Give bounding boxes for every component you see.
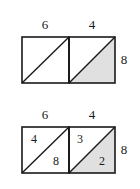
bottom-figure-height-label: 8 — [121, 142, 128, 157]
top-figure-right-width-label: 4 — [89, 17, 96, 32]
bottom-left-square-upper-label: 4 — [31, 132, 37, 146]
top-figure: 6 4 8 — [0, 14, 140, 94]
top-left-square-diagonal — [22, 37, 69, 83]
bottom-figure-right-width-label: 4 — [89, 107, 96, 122]
bottom-right-square-upper-label: 3 — [77, 132, 83, 146]
bottom-figure: 6 4 8 4 8 3 2 — [0, 104, 140, 189]
top-figure-canvas: 6 4 8 — [0, 14, 140, 94]
top-figure-height-label: 8 — [121, 52, 128, 67]
bottom-figure-left-width-label: 6 — [42, 107, 49, 122]
bottom-figure-canvas: 6 4 8 4 8 3 2 — [0, 104, 140, 189]
bottom-right-square-lower-label: 2 — [99, 154, 105, 168]
top-figure-left-width-label: 6 — [42, 17, 49, 32]
bottom-left-square-lower-label: 8 — [53, 154, 59, 168]
bottom-left-square-diagonal — [22, 127, 69, 173]
